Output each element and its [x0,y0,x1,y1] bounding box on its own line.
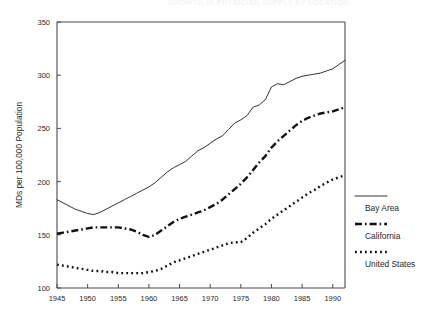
x-tick-label: 1960 [141,294,158,303]
x-axis-ticks: 1945195019551960196519701975198019851990 [49,284,345,303]
series-line-california [57,107,345,237]
x-tick-label: 1950 [79,294,96,303]
x-tick-label: 1965 [171,294,188,303]
x-tick-label: 1945 [49,294,66,303]
legend-label-bay-area: Bay Area [365,203,399,213]
series-line-united-states [57,175,345,273]
legend-label-california: California [365,231,401,241]
chart-legend: Bay AreaCaliforniaUnited States [355,196,415,269]
x-tick-label: 1985 [294,294,311,303]
x-tick-label: 1975 [232,294,249,303]
line-chart: MDs per 100,000 Population 1001502002503… [0,0,441,312]
y-tick-label: 350 [37,18,50,27]
x-tick-label: 1970 [202,294,219,303]
y-axis-title-group: MDs per 100,000 Population [14,102,24,208]
axis-frame [57,22,345,288]
series-group [57,60,345,273]
y-tick-label: 150 [37,231,50,240]
y-tick-label: 250 [37,124,50,133]
legend-label-united-states: United States [365,259,415,269]
x-tick-label: 1955 [110,294,127,303]
x-tick-label: 1980 [263,294,280,303]
series-line-bay-area [57,60,345,214]
y-axis-title: MDs per 100,000 Population [14,102,24,208]
y-tick-label: 200 [37,178,50,187]
y-tick-label: 100 [37,284,50,293]
x-tick-label: 1990 [324,294,341,303]
y-tick-label: 300 [37,71,50,80]
